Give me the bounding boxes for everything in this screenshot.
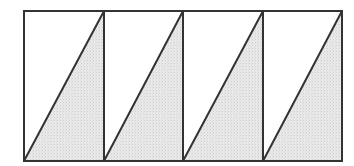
divided-rectangle-diagram xyxy=(0,0,354,166)
